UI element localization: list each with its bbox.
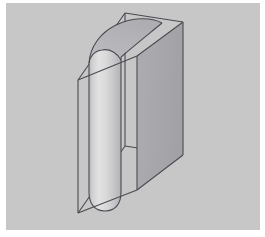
geometry-figure: [0, 0, 265, 237]
figure-frame: [0, 0, 265, 237]
cylinder-body: [89, 47, 121, 211]
